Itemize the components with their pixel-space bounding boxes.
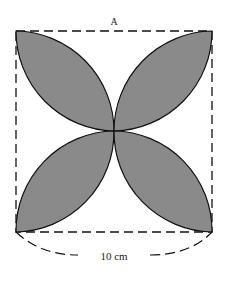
petal-diagram: A 10 cm [0, 0, 232, 281]
petal-top-left [16, 31, 114, 131]
petal-top-right [114, 31, 212, 131]
petal-bottom-left [16, 131, 114, 232]
dimension-label: 10 cm [100, 250, 128, 262]
label-a: A [110, 16, 118, 27]
petal-bottom-right [114, 131, 212, 232]
